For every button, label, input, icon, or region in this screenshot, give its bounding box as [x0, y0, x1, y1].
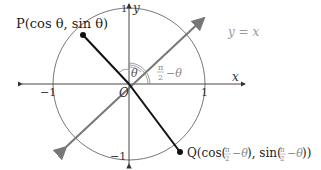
unit-circle-diagram: P(cos θ, sin θ) 1 y y = x x −1 1 O −1 θ … [0, 0, 321, 170]
radius-op [83, 35, 129, 84]
point-q [177, 149, 183, 155]
diagonal-line-y-equals-x [66, 18, 204, 147]
svg-text:2: 2 [280, 155, 284, 163]
theta-label: θ [131, 67, 138, 80]
svg-text:−θ: −θ [166, 67, 182, 80]
complement-angle-label: π 2 −θ [157, 63, 182, 82]
x-tick-neg: −1 [40, 86, 56, 99]
svg-text:π: π [158, 63, 163, 72]
origin-label: O [119, 86, 129, 100]
y-tick-pos: 1 [121, 3, 127, 14]
svg-text:2: 2 [158, 73, 163, 82]
x-tick-pos: 1 [201, 86, 208, 99]
svg-text:−θ: −θ [232, 147, 248, 160]
radius-oq [129, 84, 180, 152]
y-axis-label: y [132, 1, 140, 15]
svg-text:)): )) [302, 146, 311, 160]
svg-text:Q(cos(: Q(cos( [187, 146, 226, 160]
label-point-q: Q(cos( π 2 −θ ), sin( π 2 −θ )) [187, 146, 311, 163]
point-p [80, 32, 86, 38]
label-line: y = x [227, 25, 259, 39]
label-point-p: P(cos θ, sin θ) [16, 16, 108, 31]
svg-text:−θ: −θ [287, 147, 303, 160]
svg-text:π: π [280, 146, 285, 154]
theta-arc-left [118, 69, 129, 73]
svg-text:2: 2 [225, 155, 229, 163]
x-axis-label: x [232, 70, 239, 84]
y-tick-neg: −1 [110, 150, 126, 163]
svg-text:), sin(: ), sin( [247, 146, 282, 160]
svg-text:π: π [225, 146, 230, 154]
